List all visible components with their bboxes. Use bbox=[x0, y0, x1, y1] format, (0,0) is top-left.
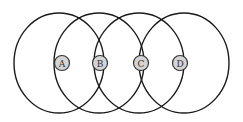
node-d: D bbox=[173, 56, 188, 71]
label-d: D bbox=[176, 59, 183, 69]
overlapping-circles-diagram: A B C D bbox=[0, 0, 243, 122]
node-b: B bbox=[93, 56, 108, 71]
label-c: C bbox=[138, 59, 145, 69]
node-c: C bbox=[134, 56, 149, 71]
node-a: A bbox=[55, 56, 70, 71]
label-a: A bbox=[58, 59, 66, 69]
label-b: B bbox=[97, 59, 104, 69]
